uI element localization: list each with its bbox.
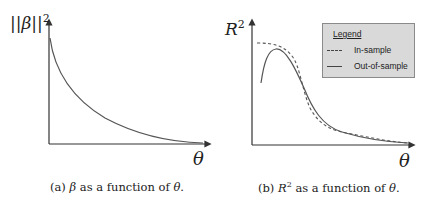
chart-panel-b: R2 θ Legend In-sample Out-of-sample [212, 0, 425, 170]
x-axis-label: θ [399, 150, 410, 171]
solid-line-swatch-icon [327, 66, 342, 67]
legend-title: Legend [333, 29, 361, 39]
dashed-line-swatch-icon [327, 50, 342, 51]
legend-item-in-sample: In-sample [327, 44, 391, 56]
y-axis-label: ||β||2 [10, 12, 50, 33]
legend-item-out-of-sample: Out-of-sample [327, 60, 408, 72]
chart-panel-a: ||β||2 θ [0, 0, 212, 170]
y-axis-label: R2 [225, 18, 245, 39]
beta-norm-curve [50, 38, 203, 143]
caption-b: (b) R2 as a function of θ. [258, 180, 400, 195]
caption-a: (a) β as a function of θ. [50, 180, 184, 194]
x-axis-label: θ [193, 148, 204, 169]
legend: Legend In-sample Out-of-sample [322, 23, 415, 78]
